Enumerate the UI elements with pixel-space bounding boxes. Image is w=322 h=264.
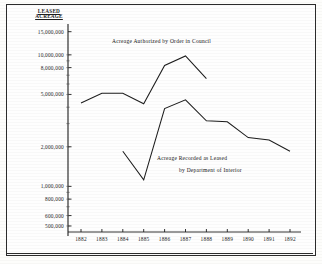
y-tick-label: 500,000 bbox=[18, 223, 64, 229]
x-tick-label: 1890 bbox=[238, 236, 258, 242]
x-tick-label: 1882 bbox=[71, 236, 91, 242]
x-tick-label: 1887 bbox=[176, 236, 196, 242]
y-tick-label: 5,000,000 bbox=[18, 91, 64, 97]
x-tick-label: 1888 bbox=[196, 236, 216, 242]
x-tick-label: 1883 bbox=[92, 236, 112, 242]
y-tick-label: 2,000,000 bbox=[18, 144, 64, 150]
x-tick-label: 1892 bbox=[280, 236, 300, 242]
y-tick-label: 1,000,000 bbox=[18, 183, 64, 189]
x-tick-label: 1886 bbox=[155, 236, 175, 242]
y-tick-label: 15,000,000 bbox=[18, 29, 64, 35]
x-tick-label: 1889 bbox=[217, 236, 237, 242]
figure-page: LEASED ACREAGE 15,000,00010,000,0008,000… bbox=[0, 0, 322, 264]
y-tick-label: 10,000,000 bbox=[18, 52, 64, 58]
series2-annotation-line2: by Department of Interior bbox=[179, 167, 242, 173]
x-tick-label: 1884 bbox=[113, 236, 133, 242]
series-line-1 bbox=[81, 56, 206, 104]
y-tick-label: 600,000 bbox=[18, 213, 64, 219]
series-layer bbox=[81, 56, 290, 180]
axes-layer bbox=[66, 24, 301, 236]
series2-annotation-line1: Acreage Recorded as Leased bbox=[157, 155, 227, 161]
y-tick-label: 800,000 bbox=[18, 196, 64, 202]
x-tick-label: 1891 bbox=[259, 236, 279, 242]
x-tick-label: 1885 bbox=[134, 236, 154, 242]
series1-annotation: Acreage Authorized by Order in Council bbox=[112, 38, 211, 44]
y-tick-label: 8,000,000 bbox=[18, 65, 64, 71]
